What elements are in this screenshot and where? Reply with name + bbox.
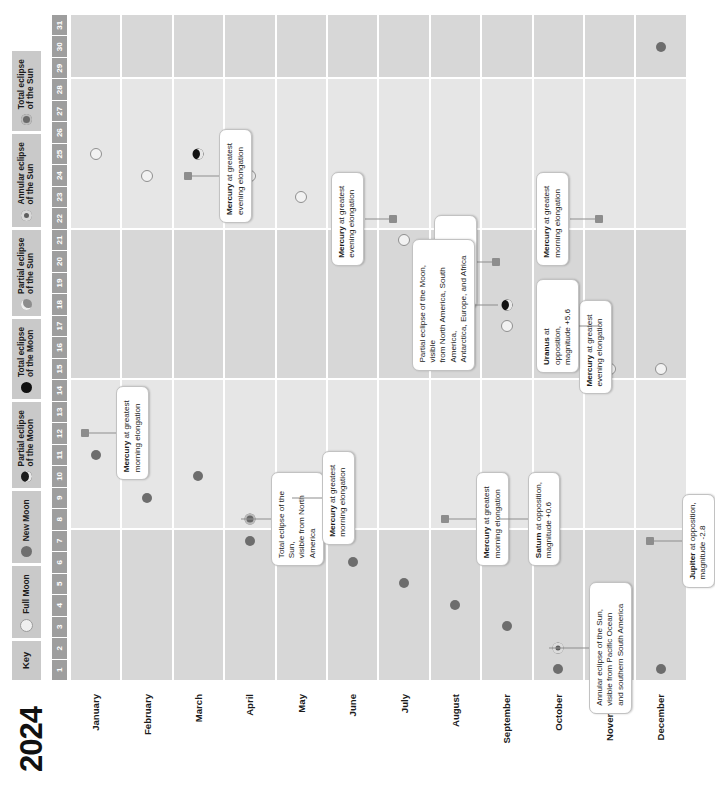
- legend-item-label: Total eclipse of the Sun: [17, 59, 36, 109]
- callout-mercury-jan[interactable]: Mercury at greatest morning elongation: [116, 386, 149, 480]
- day-cell: [277, 423, 326, 444]
- marker-full-moon: [295, 191, 307, 203]
- day-cell: [328, 594, 377, 615]
- legend-item-partial-lunar-eclipse: Partial eclipse of the Moon: [12, 402, 41, 488]
- day-cell: [174, 337, 223, 358]
- legend-title: Key: [12, 641, 41, 680]
- callout-mercury-jul[interactable]: Mercury at greatest evening elongation: [331, 172, 364, 266]
- day-cell: [277, 337, 326, 358]
- day-cell: [379, 58, 428, 79]
- day-cell: [71, 165, 120, 186]
- day-cell: [431, 15, 480, 36]
- week-divider: [225, 528, 274, 530]
- callout-object-name: Mercury: [328, 505, 337, 537]
- week-divider: [585, 528, 634, 530]
- day-cell: [277, 594, 326, 615]
- day-cell: [636, 508, 685, 529]
- marker-new-moon: [245, 536, 255, 546]
- day-cell: [122, 530, 171, 551]
- marker-new-moon: [450, 600, 460, 610]
- day-cell: [328, 294, 377, 315]
- day-cell: [379, 487, 428, 508]
- week-divider: [636, 378, 685, 380]
- callout-saturn-sep[interactable]: Saturn at opposition, magnitude +0.6: [528, 472, 561, 566]
- callout-jupiter-dec[interactable]: Jupiter at opposition, magnitude -2.8: [682, 494, 715, 588]
- week-divider: [379, 77, 428, 79]
- callout-text: Total eclipse of the Sun, visible from N…: [277, 491, 317, 558]
- callout-mercury-mar[interactable]: Mercury at greatest evening elongation: [219, 129, 252, 223]
- callout-totaleclipse-apr[interactable]: Total eclipse of the Sun, visible from N…: [271, 472, 324, 566]
- day-cell: [174, 122, 223, 143]
- day-cell: [636, 101, 685, 122]
- day-number-4: 4: [52, 595, 67, 615]
- day-cell: [277, 315, 326, 336]
- day-cell: [379, 79, 428, 100]
- week-divider: [482, 228, 531, 230]
- day-cell: [225, 423, 274, 444]
- legend-key: KeyFull MoonNew MoonPartial eclipse of t…: [12, 51, 41, 680]
- week-divider: [174, 228, 223, 230]
- marker-new-moon: [348, 557, 358, 567]
- week-divider: [431, 378, 480, 380]
- day-cell: [71, 79, 120, 100]
- day-cell: [482, 637, 531, 658]
- day-cell: [71, 594, 120, 615]
- day-cell: [328, 272, 377, 293]
- week-divider: [277, 378, 326, 380]
- day-cell: [71, 15, 120, 36]
- day-cell: [379, 637, 428, 658]
- legend-item-total-solar-eclipse: Total eclipse of the Sun: [12, 51, 41, 131]
- day-cell: [71, 530, 120, 551]
- week-divider: [431, 77, 480, 79]
- callout-text: Annular eclipse of the Sun, visible from…: [595, 604, 625, 706]
- day-cell: [379, 122, 428, 143]
- day-cell: [174, 380, 223, 401]
- month-row-march: March: [174, 15, 225, 680]
- day-cell: [328, 573, 377, 594]
- day-cell: [122, 337, 171, 358]
- day-cell: [636, 79, 685, 100]
- day-number-25: 25: [52, 144, 67, 164]
- day-cell: [225, 380, 274, 401]
- day-cell: [482, 101, 531, 122]
- week-divider: [122, 378, 171, 380]
- day-cell: [71, 659, 120, 680]
- day-cell: [225, 551, 274, 572]
- day-cell: [174, 594, 223, 615]
- callout-mercury-nov[interactable]: Mercury at greatest morning elongation: [536, 172, 569, 266]
- day-number-10: 10: [52, 466, 67, 486]
- week-divider: [174, 77, 223, 79]
- day-cell: [431, 659, 480, 680]
- callout-mercury-oct[interactable]: Mercury at greatest evening elongation: [579, 301, 612, 395]
- day-cell: [534, 122, 583, 143]
- day-cell: [277, 58, 326, 79]
- month-label-february: February: [122, 686, 171, 778]
- day-cell: [174, 637, 223, 658]
- day-cell: [379, 508, 428, 529]
- day-cell: [636, 466, 685, 487]
- day-cell: [379, 401, 428, 422]
- day-number-7: 7: [52, 531, 67, 551]
- day-cell: [328, 79, 377, 100]
- week-divider: [534, 378, 583, 380]
- day-cell: [71, 358, 120, 379]
- callout-pelm-sep[interactable]: Partial eclipse of the Moon, visible fro…: [412, 239, 476, 371]
- marker-new-moon: [399, 578, 409, 588]
- day-number-20: 20: [52, 251, 67, 271]
- day-cell: [379, 380, 428, 401]
- day-cell: [636, 380, 685, 401]
- day-cell: [174, 508, 223, 529]
- callout-annular-oct[interactable]: Annular eclipse of the Sun, visible from…: [589, 582, 632, 714]
- day-cell: [482, 272, 531, 293]
- legend-item-total-lunar-eclipse: Total eclipse of the Moon: [12, 319, 41, 399]
- week-divider: [636, 528, 685, 530]
- day-cell: [482, 58, 531, 79]
- day-number-13: 13: [52, 402, 67, 422]
- day-cell: [71, 508, 120, 529]
- day-cell: [277, 101, 326, 122]
- day-cell: [431, 36, 480, 57]
- callout-uranus-nov[interactable]: Uranus at opposition, magnitude +5.6: [536, 279, 579, 373]
- day-cell: [534, 401, 583, 422]
- callout-mercury-may[interactable]: Mercury at greatest morning elongation: [322, 451, 355, 545]
- day-cell: [636, 230, 685, 251]
